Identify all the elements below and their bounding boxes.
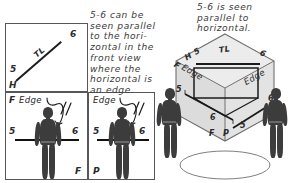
h-view-true-length-label: TL: [32, 45, 47, 59]
profile-view-edge-label: Edge: [93, 95, 116, 105]
front-view-point-5-label: 5: [9, 126, 16, 137]
front-view-plane-label-bottom: F: [75, 166, 81, 177]
h-view-point-5-label: 5: [10, 64, 17, 75]
isometric-glass-box: H 5 TL 6 F Edge Edge 5 6 6 5 F P: [163, 28, 289, 183]
figure-root: 6 5 TL H F Edge 5 6 F: [0, 0, 289, 183]
front-view-panel: F Edge 5 6 F: [5, 92, 88, 180]
front-view-plane-label-top: F: [9, 95, 15, 106]
h-view-point-6-label: 6: [70, 29, 77, 40]
horizontal-view-panel: 6 5 TL H: [5, 23, 88, 92]
caption-left: 5-6 can be seen parallel to the hori- zo…: [90, 10, 166, 96]
profile-view-point-5-label: 5: [93, 126, 100, 137]
glassbox-profile-observer-silhouette: [263, 88, 289, 158]
glassbox-profile-point-5-label: 5: [240, 121, 246, 130]
profile-view-plane-label-bottom: P: [93, 166, 100, 177]
front-view-silhouette: [34, 107, 62, 179]
profile-view-point-6-label: 6: [139, 126, 146, 137]
profile-view-panel: Edge 5 6 P: [88, 92, 155, 180]
glassbox-front-point-6-label: 6: [210, 113, 216, 122]
profile-view-silhouette: [108, 107, 136, 179]
h-view-plane-label: H: [9, 80, 17, 91]
glassbox-front-observer-silhouette: [157, 88, 183, 158]
glassbox-bottom-left-plane-label: F: [209, 129, 215, 138]
glassbox-top-true-length-label: TL: [218, 44, 230, 55]
front-view-point-6-label: 6: [72, 126, 79, 137]
glassbox-bottom-right-plane-label: P: [223, 129, 229, 138]
front-view-edge-label: Edge: [19, 95, 42, 105]
